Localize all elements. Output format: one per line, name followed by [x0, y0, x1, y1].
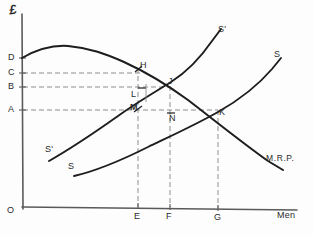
x-axis-label: Men [277, 211, 295, 220]
curve-label-supply-prime-upper: S' [218, 25, 226, 34]
x-axis [22, 207, 297, 210]
point-label-l: L [131, 90, 136, 99]
horizontal-guide-lines [23, 73, 218, 110]
x-tick-label-f: F [166, 212, 172, 221]
point-label-m: M [130, 103, 138, 112]
diagram-canvas [0, 0, 313, 235]
point-label-h: H [140, 61, 147, 70]
mrp-diagram-figure: £ O Men D C B A E F G S' S S' S M.R.P. H… [0, 0, 313, 235]
y-tick-label-a: A [8, 105, 14, 114]
origin-label: O [7, 206, 14, 215]
x-tick-label-g: G [214, 213, 221, 222]
vertical-guide-lines [138, 68, 218, 208]
y-tick-label-d: D [8, 53, 15, 62]
axis-group [22, 14, 297, 210]
y-axis [22, 14, 23, 209]
point-label-j: J [168, 77, 173, 86]
mrp-curve [22, 46, 283, 170]
curve-label-supply-upper: S [274, 50, 280, 59]
curve-label-supply-lower: S [68, 162, 74, 171]
curve-label-mrp: M.R.P. [266, 154, 294, 163]
point-label-k: K [219, 108, 225, 117]
y-tick-label-c: C [8, 68, 15, 77]
curve-label-supply-prime-lower: S' [45, 145, 53, 154]
y-axis-label: £ [8, 3, 17, 17]
x-tick-label-e: E [134, 212, 140, 221]
point-label-n: N [169, 114, 176, 123]
tick-marks [19, 58, 218, 211]
y-tick-label-b: B [8, 82, 14, 91]
point-markers [134, 66, 175, 113]
supply-curve [74, 58, 281, 176]
